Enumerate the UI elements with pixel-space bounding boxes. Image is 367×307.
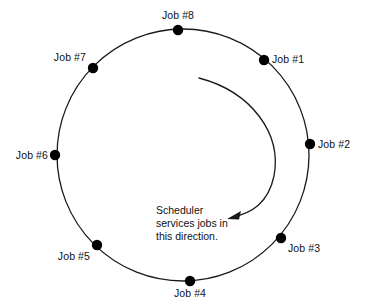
scheduler-ring-diagram: Job #1 Job #2 Job #3 Job #4 Job #5 Job #… [0, 0, 367, 307]
job-label-5: Job #5 [58, 251, 90, 262]
job-node-8 [173, 25, 183, 35]
job-label-1: Job #1 [272, 54, 304, 65]
job-label-7: Job #7 [54, 52, 86, 63]
job-node-2 [305, 139, 315, 149]
job-node-4 [185, 276, 195, 286]
direction-caption-line-2: services jobs in [156, 217, 228, 230]
direction-arrow-arc [199, 78, 275, 217]
direction-caption-line-1: Scheduler [156, 204, 228, 217]
direction-arrow-head-icon [227, 211, 241, 220]
direction-caption-line-3: this direction. [156, 230, 228, 243]
job-label-4: Job #4 [174, 288, 206, 299]
job-label-6: Job #6 [16, 150, 48, 161]
job-node-3 [276, 233, 286, 243]
job-node-6 [50, 150, 60, 160]
job-label-3: Job #3 [288, 243, 320, 254]
job-node-7 [88, 63, 98, 73]
job-label-8: Job #8 [162, 10, 194, 21]
diagram-canvas [0, 0, 367, 307]
job-label-2: Job #2 [318, 139, 350, 150]
job-node-1 [259, 55, 269, 65]
job-node-5 [92, 240, 102, 250]
direction-caption: Scheduler services jobs in this directio… [156, 204, 228, 243]
